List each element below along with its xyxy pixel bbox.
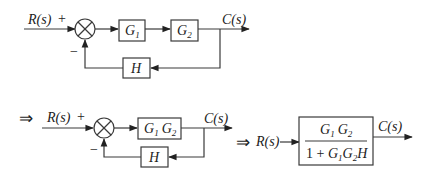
stage-1-diagram: R(s) + − G1 G2 C(s) H [24,11,249,78]
stage1-minus-sign: − [70,44,78,59]
stage2-plus-sign: + [77,109,85,124]
stage1-input-label: R(s) [27,12,52,28]
stage1-feedback-line-left [85,40,123,68]
stage2-summing-junction [94,118,114,138]
stage1-summing-junction [75,19,95,39]
block-diagram: R(s) + − G1 G2 C(s) H ⇒ R(s) + − [0,0,429,181]
transfer-denominator: 1 + G1G2H [306,146,368,163]
stage2-minus-sign: − [90,142,98,157]
stage1-plus-sign: + [58,11,66,26]
stage2-implies-arrow: ⇒ [19,109,33,128]
stage-2-diagram: ⇒ R(s) + − G1G2 C(s) H [19,109,232,167]
stage3-input-label: R(s) [255,134,280,150]
stage3-implies-arrow: ⇒ [236,133,250,152]
stage1-output-label: C(s) [222,12,246,28]
block-h-label: H [130,61,142,76]
stage3-output-label: C(s) [378,119,402,135]
stage2-feedback-line-left [104,139,141,157]
stage2-input-label: R(s) [46,110,71,126]
stage-3-diagram: ⇒ R(s) G1G2 1 + G1G2H C(s) [236,117,412,165]
stage2-block-h-label: H [148,150,160,165]
stage2-output-label: C(s) [204,111,228,127]
